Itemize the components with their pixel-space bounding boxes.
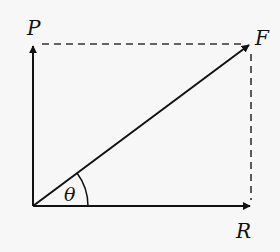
label-p: P — [26, 16, 41, 40]
label-f: F — [254, 26, 270, 50]
angle-theta-arc — [77, 173, 88, 206]
label-theta: θ — [64, 183, 76, 205]
vector-f-arrow — [33, 45, 249, 206]
vector-diagram: P F R θ — [0, 0, 280, 252]
label-r: R — [235, 219, 251, 243]
